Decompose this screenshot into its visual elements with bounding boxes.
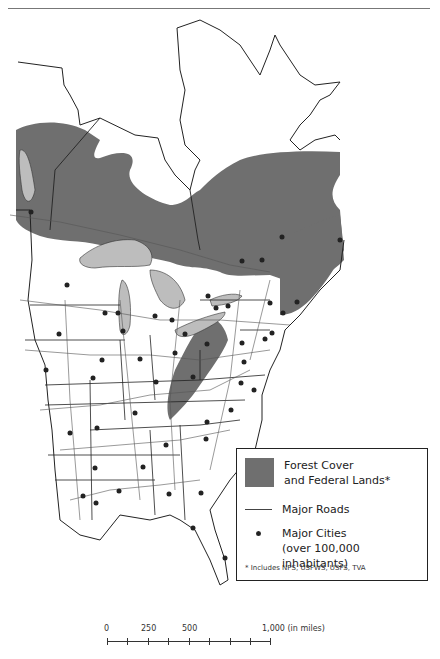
legend-footnote: * Includes NPS, USFWS, USFS, TVA — [245, 564, 366, 572]
legend-cities-label-1: Major Cities — [282, 526, 427, 541]
road-line-icon — [245, 509, 272, 510]
legend-item-forest: Forest Cover and Federal Lands* — [245, 458, 390, 488]
legend-forest-label-1: Forest Cover — [284, 458, 390, 473]
lake-superior — [80, 240, 152, 268]
city-dot-icon — [256, 531, 261, 536]
scale-label-1000: 1,000 (in miles) — [262, 624, 325, 633]
scale-label-250: 250 — [141, 624, 156, 633]
legend-roads-label: Major Roads — [282, 502, 349, 517]
legend-forest-label-2: and Federal Lands* — [284, 473, 390, 488]
forest-swatch — [245, 458, 274, 487]
scale-bar: 0 250 500 1,000 (in miles) — [104, 624, 344, 654]
scale-label-0: 0 — [104, 624, 109, 633]
map-legend: Forest Cover and Federal Lands* Major Ro… — [236, 448, 428, 581]
scale-label-500: 500 — [182, 624, 197, 633]
legend-item-roads: Major Roads — [245, 502, 349, 517]
